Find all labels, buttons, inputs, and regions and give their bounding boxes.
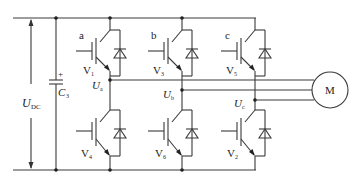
v4-label: V [81, 147, 89, 159]
udc-voltage-arrow [29, 19, 34, 169]
v3-label: V [153, 64, 161, 76]
v2-label: V [227, 147, 235, 159]
leg-c-label: c [225, 29, 230, 41]
leg-a: a V 1 U a V 4 [76, 18, 126, 170]
capacitor-polarity: + [58, 69, 63, 79]
v6-label: V [155, 147, 163, 159]
v5-label: V [226, 64, 234, 76]
v6-label-sub: 6 [163, 154, 166, 160]
phase-output-lines [110, 80, 314, 100]
v2-label-sub: 2 [235, 154, 238, 160]
uc-label-sub: c [242, 104, 245, 110]
leg-b-label: b [151, 29, 157, 41]
v5-label-sub: 5 [234, 71, 237, 77]
v4-label-sub: 4 [89, 154, 92, 160]
motor-label: M [325, 84, 335, 96]
v3-label-sub: 3 [161, 71, 164, 77]
igbt-v4 [76, 110, 126, 170]
leg-b: b V 3 U b V 6 [148, 18, 198, 170]
capacitor-label: C [58, 86, 66, 98]
ub-label-sub: b [171, 95, 174, 101]
udc-label-sub: DC [31, 103, 41, 111]
ua-label-sub: a [100, 86, 103, 92]
inverter-circuit-diagram: U DC + C 3 a [0, 0, 358, 187]
leg-c: c V 5 U c V 2 [221, 18, 271, 170]
v1-label: V [83, 64, 91, 76]
capacitor-label-sub: 3 [66, 93, 69, 99]
leg-a-label: a [79, 29, 84, 41]
igbt-v2 [221, 110, 271, 170]
v1-label-sub: 1 [91, 71, 94, 77]
igbt-v6 [148, 110, 198, 170]
